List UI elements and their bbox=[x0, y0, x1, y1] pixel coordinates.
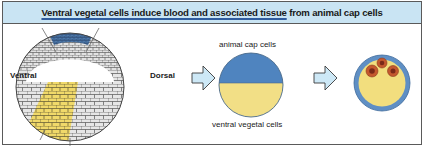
result-explant bbox=[354, 55, 410, 111]
embryo-diagram bbox=[14, 28, 126, 146]
right-arrow-icon bbox=[314, 66, 337, 90]
explant-combination bbox=[219, 53, 283, 117]
animal-cap-label: animal cap cells bbox=[219, 40, 276, 49]
right-arrow-icon bbox=[192, 66, 215, 90]
ventral-vegetal-label: ventral vegetal cells bbox=[212, 120, 282, 129]
dorsal-label: Dorsal bbox=[150, 71, 175, 80]
ventral-label: Ventral bbox=[10, 71, 37, 80]
